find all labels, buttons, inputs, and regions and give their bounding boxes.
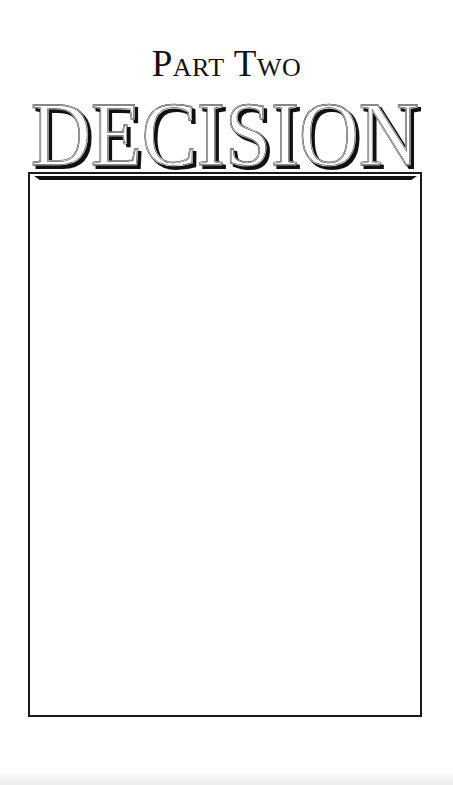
scan-edge — [0, 770, 453, 785]
book-page: Part Two DECISION DECISION DECISION — [0, 0, 453, 785]
frame-shadow-bar — [34, 176, 417, 180]
content-frame — [28, 172, 422, 717]
section-title: DECISION DECISION DECISION — [0, 92, 453, 176]
part-label: Part Two — [0, 44, 453, 84]
section-title-inline: DECISION — [31, 92, 419, 176]
